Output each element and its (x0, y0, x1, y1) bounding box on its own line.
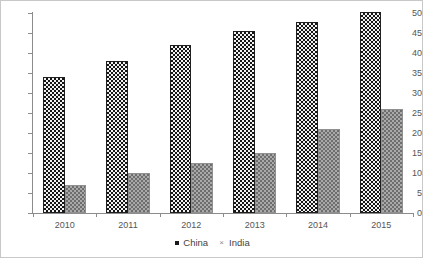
bar-india-2013 (255, 153, 277, 213)
y-axis-tick-mark (28, 173, 32, 174)
y-axis-tick-mark (28, 193, 32, 194)
x-axis-tick-mark (160, 213, 161, 217)
y-axis-tick-mark (28, 113, 32, 114)
x-axis-tick-label: 2014 (286, 221, 349, 230)
x-axis-tick-mark (286, 213, 287, 217)
x-axis-tick-label: 2013 (223, 221, 286, 230)
bar-india-2012 (191, 163, 213, 213)
legend-entry-china: China (175, 237, 208, 248)
legend-entry-india: × India (218, 237, 250, 248)
y-axis-tick-mark (28, 13, 32, 14)
y-axis-tick-mark (28, 153, 32, 154)
bar-india-2010 (65, 185, 87, 213)
bar-china-2013 (233, 31, 255, 213)
y-axis-tick-mark (28, 33, 32, 34)
x-axis-tick-mark (96, 213, 97, 217)
bar-china-2011 (106, 61, 128, 213)
bar-china-2015 (360, 12, 382, 213)
y-axis-tick-mark (28, 73, 32, 74)
legend-label-china: China (183, 237, 208, 248)
plot-area (33, 13, 413, 213)
y-axis-tick-mark (28, 213, 32, 214)
x-axis-tick-label: 2011 (96, 221, 159, 230)
chart-legend: China × India (1, 237, 423, 248)
y-axis-tick-mark (28, 53, 32, 54)
bar-india-2011 (128, 173, 150, 213)
y-axis-tick-mark (28, 133, 32, 134)
x-axis-tick-mark (33, 213, 34, 217)
square-marker-icon (175, 241, 179, 245)
x-axis-tick-mark (223, 213, 224, 217)
bar-india-2015 (381, 109, 403, 213)
bar-china-2010 (43, 77, 65, 213)
x-axis-tick-label: 2010 (33, 221, 96, 230)
y-axis-tick-mark (28, 93, 32, 94)
bar-chart: 05101520253035404550 2010201120122013201… (0, 0, 423, 258)
x-axis-tick-mark (413, 213, 414, 217)
legend-label-india: India (229, 237, 250, 248)
x-axis-tick-label: 2015 (350, 221, 413, 230)
x-axis-tick-label: 2012 (160, 221, 223, 230)
cross-marker-icon: × (218, 239, 225, 246)
bar-india-2014 (318, 129, 340, 213)
bar-china-2014 (296, 22, 318, 213)
bar-china-2012 (170, 45, 192, 213)
x-axis-tick-mark (350, 213, 351, 217)
